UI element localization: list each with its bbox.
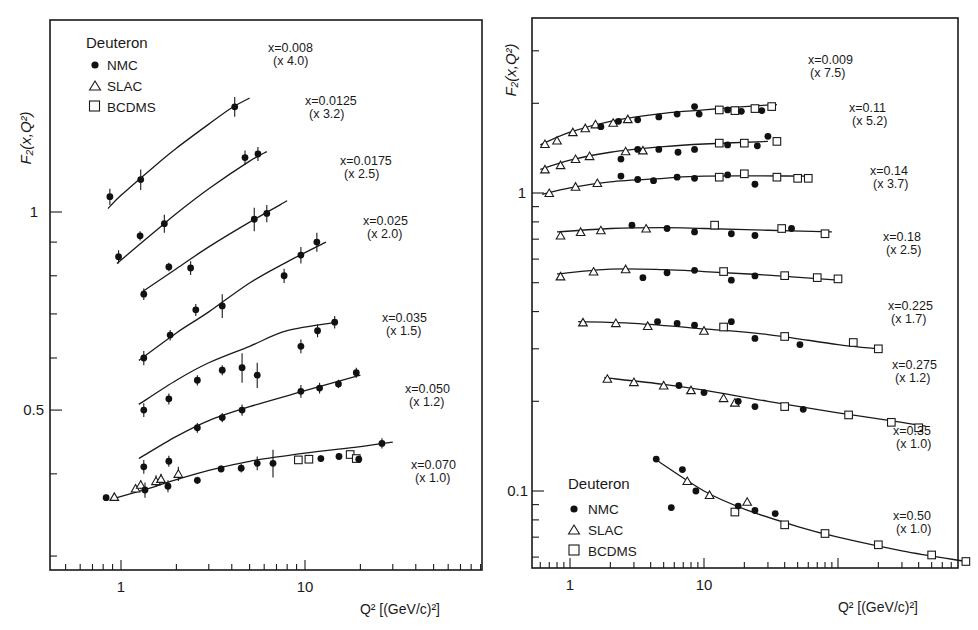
right-x-axis-label: Q² [(GeV/c)²]: [838, 599, 918, 615]
legend-bcdms-square-icon: [569, 545, 579, 555]
right-series-label-x0.275: x=0.275: [892, 358, 937, 372]
left-series-label-x0.008: x=0.008: [268, 41, 313, 55]
nmc-data-point-icon: [735, 398, 742, 405]
nmc-data-point-icon: [165, 458, 172, 465]
bcdms-data-point-icon: [781, 272, 789, 280]
nmc-data-point-icon: [161, 220, 168, 227]
bcdms-data-point-icon: [962, 558, 970, 566]
slac-data-point-icon: [174, 470, 183, 478]
nmc-data-point-icon: [654, 318, 661, 325]
left-series-scale-x0.0125: (x 3.2): [309, 107, 344, 121]
bcdms-data-point-icon: [711, 221, 719, 229]
nmc-data-point-icon: [379, 440, 386, 447]
nmc-data-point-icon: [317, 455, 324, 462]
left-legend-item-bcdms: BCDMS: [107, 100, 156, 115]
nmc-data-point-icon: [194, 477, 201, 484]
nmc-data-point-icon: [691, 103, 698, 110]
nmc-data-point-icon: [103, 494, 110, 501]
left-series-scale-x0.025: (x 2.0): [367, 227, 402, 241]
nmc-data-point-icon: [615, 118, 622, 125]
nmc-data-point-icon: [618, 156, 625, 163]
nmc-data-point-icon: [674, 320, 681, 327]
series-x0.070: [103, 438, 393, 501]
nmc-data-point-icon: [218, 465, 225, 472]
nmc-data-point-icon: [187, 265, 194, 272]
nmc-data-point-icon: [724, 142, 731, 149]
nmc-data-point-icon: [664, 269, 671, 276]
right-series-scale-x0.50: (x 1.0): [896, 522, 931, 536]
right-series-label-x0.50: x=0.50: [893, 509, 931, 523]
bcdms-data-point-icon: [849, 339, 857, 347]
nmc-data-point-icon: [752, 403, 759, 410]
nmc-data-point-icon: [691, 146, 698, 153]
nmc-data-point-icon: [738, 108, 745, 115]
nmc-data-point-icon: [629, 222, 636, 229]
right-series-scale-x0.14: (x 3.7): [873, 177, 908, 191]
right-legend-item-nmc: NMC: [588, 502, 619, 517]
nmc-data-point-icon: [797, 341, 804, 348]
right-legend-item-bcdms: BCDMS: [588, 544, 637, 559]
nmc-data-point-icon: [165, 483, 172, 490]
nmc-data-point-icon: [752, 507, 759, 514]
series-x0.050: [139, 363, 361, 474]
slac-data-point-icon: [700, 327, 709, 335]
bcdms-data-point-icon: [773, 138, 781, 146]
bcdms-data-point-icon: [720, 323, 728, 331]
bcdms-data-point-icon: [751, 105, 759, 113]
slac-data-point-icon: [553, 137, 562, 145]
left-plot-panel: 1 10 1 0.5 F₂(x,Q²) Q² [(GeV/c)²] Deuter…: [17, 20, 482, 617]
right-plot-panel: 1 10 1 0.1 F₂(x,Q²) Q² [(GeV/c)²] Deuter…: [502, 18, 970, 615]
left-series-label-x0.035: x=0.035: [382, 311, 427, 325]
nmc-data-point-icon: [140, 463, 147, 470]
legend-nmc-filled-circle-icon: [91, 61, 98, 68]
bcdms-data-point-icon: [804, 175, 812, 183]
right-y-axis-ticks: [532, 51, 544, 557]
left-legend: Deuteron NMC SLAC BCDMS: [86, 34, 156, 115]
nmc-data-point-icon: [316, 385, 323, 392]
right-series-scale-x0.225: (x 1.7): [891, 312, 926, 326]
left-series-scale-x0.050: (x 1.2): [409, 395, 444, 409]
nmc-data-point-icon: [314, 327, 321, 334]
nmc-data-point-icon: [788, 225, 795, 232]
nmc-data-point-icon: [597, 123, 604, 130]
nmc-data-point-icon: [270, 460, 277, 467]
fit-curve: [139, 375, 361, 458]
left-series-scale-x0.0175: (x 2.5): [344, 167, 379, 181]
nmc-data-point-icon: [692, 488, 699, 495]
right-series-label-x0.11: x=0.11: [849, 101, 886, 115]
nmc-data-point-icon: [298, 343, 305, 350]
nmc-data-point-icon: [691, 322, 698, 329]
left-series-scale-x0.070: (x 1.0): [415, 471, 450, 485]
nmc-data-point-icon: [255, 151, 262, 158]
nmc-data-point-icon: [219, 367, 226, 374]
fit-curve: [578, 322, 878, 349]
nmc-data-point-icon: [691, 267, 698, 274]
left-series-scale-x0.008: (x 4.0): [273, 54, 308, 68]
nmc-data-point-icon: [254, 460, 261, 467]
nmc-data-point-icon: [165, 395, 172, 402]
bcdms-data-point-icon: [720, 268, 728, 276]
series-x0.225: [556, 265, 842, 283]
nmc-data-point-icon: [137, 176, 144, 183]
right-x-tick-label-1: 1: [566, 576, 574, 593]
legend-slac-triangle-icon: [569, 525, 580, 534]
right-series-label-x0.35: x=0.35: [893, 424, 931, 438]
fit-curve: [604, 378, 925, 426]
nmc-data-point-icon: [650, 177, 657, 184]
bcdms-data-point-icon: [875, 345, 883, 353]
nmc-data-point-icon: [231, 103, 238, 110]
nmc-data-point-icon: [640, 274, 647, 281]
nmc-data-point-icon: [752, 273, 759, 280]
right-series-label-x0.14: x=0.14: [870, 164, 908, 178]
nmc-data-point-icon: [668, 504, 675, 511]
nmc-data-point-icon: [313, 239, 320, 246]
legend-slac-triangle-icon: [90, 81, 101, 90]
nmc-data-point-icon: [674, 174, 681, 181]
bcdms-data-point-icon: [928, 551, 936, 559]
nmc-data-point-icon: [242, 154, 249, 161]
nmc-data-point-icon: [140, 407, 147, 414]
nmc-data-point-icon: [701, 389, 708, 396]
slac-data-point-icon: [157, 475, 166, 483]
series-x0.18: [556, 221, 832, 239]
series-x0.035: [139, 316, 338, 417]
